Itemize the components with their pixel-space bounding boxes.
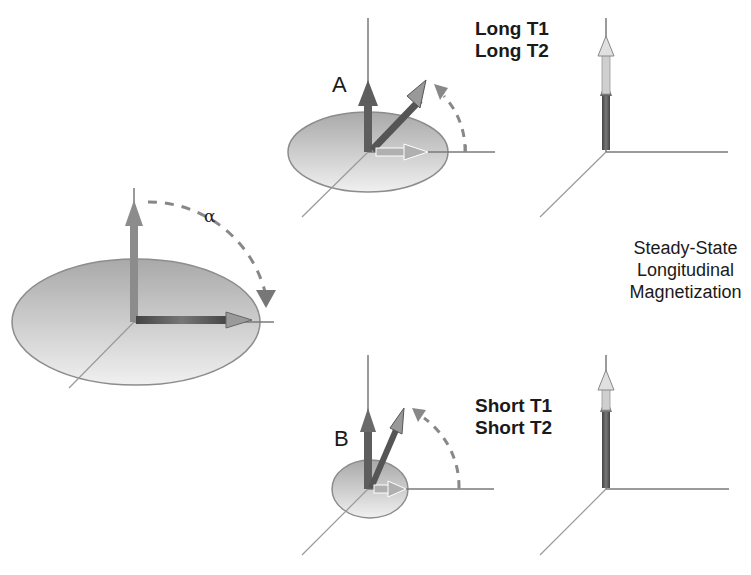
transverse-vector bbox=[376, 148, 406, 156]
arrowhead-arc-icon bbox=[434, 84, 448, 100]
panel-a-title-line-2: Long T2 bbox=[475, 40, 549, 62]
panel-b-title-line-1: Short T1 bbox=[475, 395, 552, 417]
panel-b-label: B bbox=[334, 426, 349, 452]
panel-a-label: A bbox=[332, 72, 347, 98]
flip-angle-arc bbox=[424, 418, 459, 488]
arrowhead-tilted-icon bbox=[390, 408, 404, 434]
steady-state-vector bbox=[602, 410, 610, 488]
panel-b-diagram bbox=[302, 355, 494, 555]
panel-b-title-line-2: Short T2 bbox=[475, 417, 552, 439]
panel-a-title-line-1: Long T1 bbox=[475, 18, 549, 40]
longitudinal-vector bbox=[364, 430, 372, 489]
caption-line-1: Steady-State bbox=[620, 237, 751, 259]
longitudinal-vector bbox=[364, 105, 372, 152]
panel-a-title: Long T1 Long T2 bbox=[475, 18, 549, 62]
x-axis bbox=[540, 489, 606, 555]
arrowhead-up-icon bbox=[125, 200, 143, 226]
panel-a-steady-state bbox=[540, 18, 728, 217]
steady-state-vector bbox=[602, 94, 610, 150]
arrowhead-tilted-icon bbox=[407, 80, 426, 108]
arrowhead-light-up-icon bbox=[598, 36, 614, 56]
panel-a-diagram bbox=[288, 18, 495, 217]
panel-b-title: Short T1 Short T2 bbox=[475, 395, 552, 439]
arrowhead-down-icon bbox=[256, 290, 276, 308]
x-axis bbox=[540, 152, 606, 217]
arrowhead-up-icon bbox=[358, 80, 378, 106]
equilibrium-vector bbox=[602, 54, 610, 94]
arrowhead-arc-icon bbox=[412, 408, 426, 422]
initial-magnetization-diagram bbox=[12, 188, 276, 388]
longitudinal-vector bbox=[130, 222, 138, 322]
transverse-vector bbox=[136, 316, 228, 324]
flip-angle-label: α bbox=[204, 206, 215, 226]
panel-b-steady-state bbox=[540, 355, 729, 555]
arrowhead-up-icon bbox=[360, 408, 376, 432]
steady-state-caption: Steady-State Longitudinal Magnetization bbox=[620, 237, 751, 303]
caption-line-2: Longitudinal bbox=[620, 259, 751, 281]
caption-line-3: Magnetization bbox=[620, 281, 751, 303]
arrowhead-light-up-icon bbox=[598, 370, 614, 390]
